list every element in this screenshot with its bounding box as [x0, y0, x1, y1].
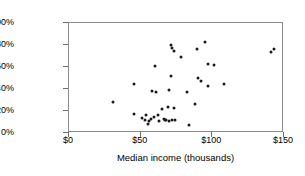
- data-point: [194, 103, 197, 106]
- data-point: [156, 114, 159, 117]
- data-point: [161, 107, 164, 110]
- data-point: [172, 106, 175, 109]
- y-tick-label: 80%: [0, 40, 14, 49]
- y-tick-label: 40%: [0, 84, 14, 93]
- data-point: [222, 82, 225, 85]
- data-point: [152, 115, 155, 118]
- data-point: [132, 82, 135, 85]
- x-tick-label: $0: [63, 136, 73, 145]
- data-point: [158, 119, 161, 122]
- data-point: [199, 80, 202, 83]
- data-point: [179, 56, 182, 59]
- data-point: [212, 63, 215, 66]
- data-point: [168, 89, 171, 92]
- data-points-layer: [69, 23, 282, 131]
- data-point: [112, 101, 115, 104]
- plot-area: [68, 22, 283, 132]
- scatter-chart-figure: 0%20%40%60%80%100% $0$50$100$150 Median …: [0, 0, 305, 176]
- y-tick-label: 20%: [0, 106, 14, 115]
- x-tick-label: $50: [132, 136, 147, 145]
- data-point: [272, 48, 275, 51]
- data-point: [166, 105, 169, 108]
- data-point: [132, 113, 135, 116]
- data-point: [169, 74, 172, 77]
- x-tick-label: $150: [273, 136, 293, 145]
- data-point: [174, 118, 177, 121]
- data-point: [154, 64, 157, 67]
- data-point: [188, 124, 191, 127]
- y-tick-label: 0%: [0, 128, 14, 137]
- data-point: [207, 84, 210, 87]
- data-point: [172, 49, 175, 52]
- x-axis-title: Median income (thousands): [68, 152, 283, 163]
- data-point: [143, 118, 146, 121]
- data-point: [195, 48, 198, 51]
- data-point: [155, 91, 158, 94]
- data-point: [146, 123, 149, 126]
- y-tick-label: 100%: [0, 18, 14, 27]
- y-tick-label: 60%: [0, 62, 14, 71]
- x-tick-label: $100: [201, 136, 221, 145]
- data-point: [185, 91, 188, 94]
- data-point: [145, 114, 148, 117]
- data-point: [204, 40, 207, 43]
- data-point: [207, 62, 210, 65]
- data-point: [151, 90, 154, 93]
